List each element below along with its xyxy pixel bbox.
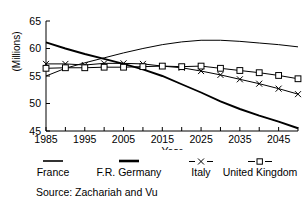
x-tick-label: 2045 — [267, 133, 291, 145]
legend-label-united-kingdom: United Kingdom — [216, 166, 304, 178]
x-tick-label: 2025 — [189, 133, 213, 145]
legend-item-france: France — [18, 156, 88, 178]
source-note: Source: Zachariah and Vu — [36, 186, 158, 198]
marker-square — [159, 63, 165, 69]
legend-key-solid-thin-line — [18, 156, 88, 166]
y-tick-label: 60 — [29, 42, 41, 54]
marker-square — [62, 65, 68, 71]
marker-square — [121, 64, 127, 70]
legend-label-fr-germany: F.R. Germany — [83, 166, 175, 178]
legend-item-united-kingdom: United Kingdom — [216, 156, 304, 178]
y-tick-label: 50 — [29, 97, 41, 109]
marker-square — [43, 65, 49, 71]
x-tick-label: 1995 — [73, 133, 97, 145]
marker-square — [276, 73, 282, 79]
y-tick-label: 55 — [29, 70, 41, 82]
x-tick-label: 2005 — [112, 133, 136, 145]
line-chart-svg: 45505560651985199520052015202520352045Ye… — [0, 0, 306, 150]
y-tick-label: 65 — [29, 15, 41, 27]
marker-square — [179, 64, 185, 70]
marker-square — [237, 68, 243, 74]
legend-key-solid-thick-line — [83, 156, 175, 166]
marker-square — [101, 64, 107, 70]
marker-square — [198, 63, 204, 69]
marker-square — [140, 64, 146, 70]
marker-x — [295, 91, 301, 97]
chart-figure: (Millions) 45505560651985199520052015202… — [0, 0, 306, 208]
legend-item-fr-germany: F.R. Germany — [83, 156, 175, 178]
marker-x — [276, 86, 282, 92]
marker-square — [295, 76, 301, 82]
x-tick-label: 2015 — [151, 133, 175, 145]
x-tick-label: 2035 — [228, 133, 252, 145]
marker-square — [82, 65, 88, 71]
plot-area: 45505560651985199520052015202520352045Ye… — [0, 0, 306, 150]
marker-square — [256, 70, 262, 76]
x-tick-label: 1985 — [34, 133, 58, 145]
legend-key-dashed-square-marker — [216, 156, 304, 166]
x-axis-title: Year — [161, 145, 183, 150]
chart-legend: France F.R. Germany Italy — [0, 156, 306, 182]
legend-label-france: France — [18, 166, 88, 178]
marker-square — [218, 65, 224, 71]
